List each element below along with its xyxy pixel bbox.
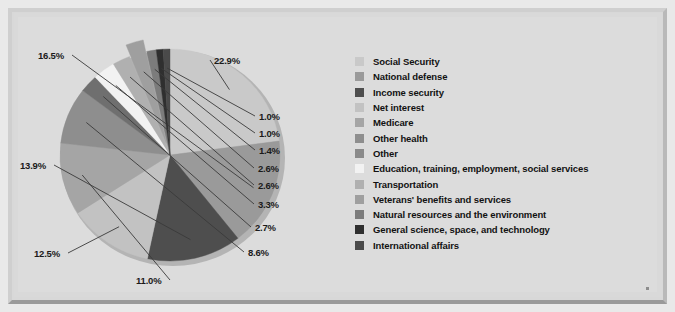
- legend-item-label: Income security: [373, 87, 444, 98]
- legend-item[interactable]: Natural resources and the environment: [355, 207, 655, 222]
- legend-item[interactable]: International affairs: [355, 238, 655, 253]
- legend-item[interactable]: Social Security: [355, 54, 655, 69]
- legend-item[interactable]: Other health: [355, 130, 655, 145]
- legend-item-label: Transportation: [373, 179, 438, 190]
- figure-frame: 22.9%16.5%13.9%12.5%11.0%8.6%2.7%3.3%2.6…: [0, 0, 675, 312]
- pie-value-label: 2.6%: [258, 180, 279, 191]
- legend-item-label: National defense: [373, 71, 447, 82]
- legend: Social SecurityNational defenseIncome se…: [355, 54, 655, 253]
- legend-swatch-icon: [355, 241, 364, 250]
- pie-value-label: 8.6%: [248, 247, 269, 258]
- pie-chart: 22.9%16.5%13.9%12.5%11.0%8.6%2.7%3.3%2.6…: [18, 17, 338, 292]
- legend-item[interactable]: Medicare: [355, 115, 655, 130]
- pie-value-label: 2.6%: [258, 163, 279, 174]
- legend-swatch-icon: [355, 118, 364, 127]
- legend-item-label: Net interest: [373, 102, 424, 113]
- legend-item-label: Other: [373, 148, 398, 159]
- legend-item-label: Veterans' benefits and services: [373, 194, 511, 205]
- pie-value-label: 12.5%: [34, 248, 60, 259]
- corner-mark: [646, 287, 649, 290]
- pie-value-label: 1.0%: [259, 128, 280, 139]
- legend-swatch-icon: [355, 103, 364, 112]
- pie-svg: [18, 17, 338, 292]
- legend-item[interactable]: National defense: [355, 69, 655, 84]
- legend-item[interactable]: Net interest: [355, 100, 655, 115]
- legend-item[interactable]: Education, training, employment, social …: [355, 161, 655, 176]
- legend-swatch-icon: [355, 88, 364, 97]
- pie-value-label: 22.9%: [214, 55, 240, 66]
- legend-item[interactable]: General science, space, and technology: [355, 222, 655, 237]
- legend-swatch-icon: [355, 210, 364, 219]
- legend-swatch-icon: [355, 134, 364, 143]
- legend-item-label: International affairs: [373, 240, 459, 251]
- pie-value-label: 13.9%: [20, 160, 46, 171]
- legend-item[interactable]: Income security: [355, 85, 655, 100]
- legend-item-label: Natural resources and the environment: [373, 209, 546, 220]
- legend-item[interactable]: Veterans' benefits and services: [355, 192, 655, 207]
- legend-item-label: Other health: [373, 133, 428, 144]
- pie-value-label: 1.4%: [259, 145, 280, 156]
- legend-swatch-icon: [355, 195, 364, 204]
- legend-swatch-icon: [355, 149, 364, 158]
- legend-item-label: Social Security: [373, 56, 440, 67]
- legend-item[interactable]: Transportation: [355, 176, 655, 191]
- pie-value-label: 11.0%: [136, 275, 161, 286]
- legend-swatch-icon: [355, 225, 364, 234]
- legend-item-label: General science, space, and technology: [373, 224, 550, 235]
- legend-swatch-icon: [355, 180, 364, 189]
- pie-value-label: 2.7%: [255, 222, 276, 233]
- legend-item-label: Medicare: [373, 117, 413, 128]
- legend-item-label: Education, training, employment, social …: [373, 163, 588, 174]
- pie-value-label: 16.5%: [38, 50, 64, 61]
- legend-swatch-icon: [355, 57, 364, 66]
- legend-item[interactable]: Other: [355, 146, 655, 161]
- pie-slices: [60, 40, 280, 261]
- legend-swatch-icon: [355, 164, 364, 173]
- pie-value-label: 3.3%: [258, 199, 279, 210]
- legend-swatch-icon: [355, 72, 364, 81]
- pie-value-label: 1.0%: [259, 111, 280, 122]
